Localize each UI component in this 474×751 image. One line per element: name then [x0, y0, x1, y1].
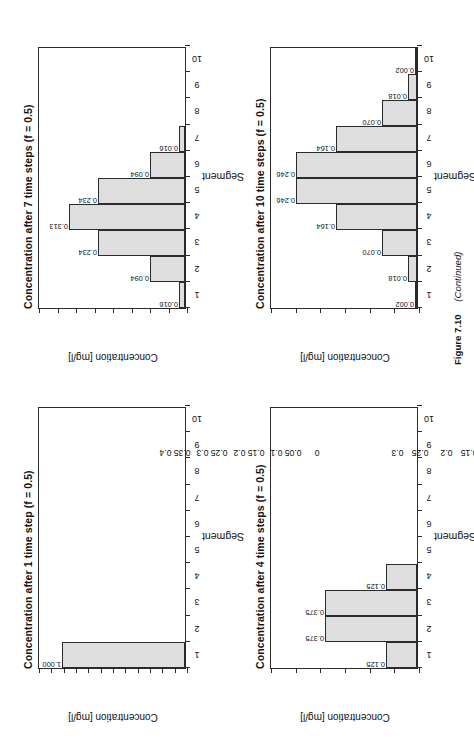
bar-value-label: 0.125	[367, 582, 386, 591]
chart-title: Concentration after 10 time steps (f = 0…	[254, 98, 266, 309]
y-axis-tick-label: 0.3	[139, 448, 404, 458]
bar: 0.234	[98, 230, 185, 256]
x-axis-tick	[417, 307, 422, 308]
bar-value-label: 0.234	[79, 248, 98, 257]
bar-value-label: 0.375	[305, 634, 324, 643]
x-axis-tick-label: 1	[194, 650, 199, 660]
y-axis-tick	[162, 668, 163, 673]
x-axis-tick	[185, 667, 190, 668]
bar-slot: 0.016	[39, 126, 185, 152]
bar-value-label: 0.234	[79, 196, 98, 205]
x-axis-tick	[417, 150, 422, 151]
x-axis-tick-label: 6	[426, 159, 431, 169]
y-axis-tick	[271, 668, 272, 673]
y-axis-tick	[138, 668, 139, 673]
bar-slot	[39, 74, 185, 100]
bar: 0.375	[325, 590, 418, 616]
plot-wrapper: 0.1250.3750.3750.12500.10.20.30.40.50.6C…	[270, 407, 418, 669]
x-axis-tick-label: 5	[426, 545, 431, 555]
bar-slot	[271, 408, 417, 434]
bar-slot	[39, 538, 185, 564]
x-axis-tick-label: 4	[194, 211, 199, 221]
y-axis-tick	[296, 308, 297, 313]
x-axis-tick-label: 8	[194, 467, 199, 477]
x-axis-tick-label: 5	[194, 545, 199, 555]
bar-value-label: 0.002	[396, 300, 415, 309]
bar-slot: 0.313	[39, 204, 185, 230]
bar-value-label: 0.002	[396, 66, 415, 75]
bar-slot	[271, 538, 417, 564]
chart-title: Concentration after 7 time steps (f = 0.…	[22, 104, 34, 309]
x-axis-title: Segment	[202, 531, 244, 543]
y-axis-tick	[150, 668, 151, 673]
y-axis-tick	[169, 308, 170, 313]
bar-value-label: 0.313	[50, 222, 69, 231]
y-axis-tick	[113, 668, 114, 673]
bar-slot: 0.018	[271, 256, 417, 282]
x-axis-tick	[185, 641, 190, 642]
bar: 0.125	[386, 564, 417, 590]
x-axis-tick-label: 10	[424, 414, 434, 424]
x-axis-tick-label: 3	[426, 238, 431, 248]
x-axis-tick-label: 7	[426, 133, 431, 143]
bar-value-label: 0.164	[317, 222, 336, 231]
chart-panel-7-time-steps: Concentration after 7 time steps (f = 0.…	[22, 35, 218, 365]
x-axis-tick-label: 1	[194, 290, 199, 300]
bar-slot: 0.164	[271, 126, 417, 152]
y-axis-tick	[370, 668, 371, 673]
x-axis-tick-label: 1	[426, 650, 431, 660]
bar: 0.125	[386, 642, 417, 668]
bar: 0.164	[336, 204, 417, 230]
x-axis-tick-label: 2	[426, 624, 431, 634]
x-axis-tick	[185, 405, 190, 406]
x-axis-tick	[417, 124, 422, 125]
y-axis-tick	[150, 308, 151, 313]
y-axis-tick	[296, 668, 297, 673]
bar: 0.375	[325, 616, 418, 642]
bar-slot	[39, 100, 185, 126]
bar: 0.016	[179, 126, 185, 152]
x-axis-tick	[417, 641, 422, 642]
y-axis-tick	[88, 668, 89, 673]
bar: 0.070	[382, 100, 417, 126]
chart-title: Concentration after 4 time steps (f = 0.…	[254, 464, 266, 669]
bar-slot	[39, 48, 185, 74]
y-axis-tick	[39, 668, 40, 673]
x-axis-tick	[185, 281, 190, 282]
bar: 0.018	[408, 74, 417, 100]
x-axis-tick-label: 3	[426, 598, 431, 608]
y-axis-tick	[345, 308, 346, 313]
chart-panel-1-time-step: Concentration after 1 time step (f = 0.5…	[22, 395, 218, 725]
x-axis-tick-label: 3	[194, 598, 199, 608]
bar-value-label: 0.246	[276, 170, 295, 179]
bar: 0.094	[150, 152, 185, 178]
bar-slot	[271, 512, 417, 538]
plot-wrapper: 0.0020.0180.0700.1640.2460.2460.1640.070…	[270, 47, 418, 309]
x-axis-tick-label: 7	[194, 133, 199, 143]
bar-slot: 0.246	[271, 152, 417, 178]
y-axis-tick	[132, 308, 133, 313]
figure-caption: Figure 7.10 (Continued)	[452, 252, 463, 365]
x-axis-tick-label: 10	[424, 54, 434, 64]
x-axis-tick	[417, 405, 422, 406]
plot-wrapper: 1.00000.10.20.30.40.50.60.70.80.91.01.11…	[38, 407, 186, 669]
y-axis-title: Concentration [mg/l]	[300, 352, 390, 363]
x-axis-tick	[417, 562, 422, 563]
x-axis-tick	[417, 431, 422, 432]
bar: 0.070	[382, 230, 417, 256]
bar: 0.016	[179, 282, 185, 308]
x-axis-tick	[185, 536, 190, 537]
x-axis-title: Segment	[434, 531, 474, 543]
x-axis-tick-label: 2	[194, 624, 199, 634]
bar-slot	[39, 460, 185, 486]
y-axis-tick	[76, 308, 77, 313]
bar-slot: 0.018	[271, 74, 417, 100]
bar: 0.094	[150, 256, 185, 282]
x-axis-tick	[185, 484, 190, 485]
y-axis-tick	[125, 668, 126, 673]
figure-caption-label: Figure 7.10	[452, 314, 463, 365]
bar-slot: 0.002	[271, 282, 417, 308]
x-axis-tick	[417, 667, 422, 668]
x-axis-tick	[185, 97, 190, 98]
figure-panel-grid: Concentration after 1 time step (f = 0.5…	[0, 0, 474, 751]
